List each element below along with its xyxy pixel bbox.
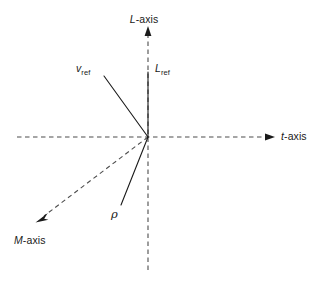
rho-label: ρ [111, 208, 118, 220]
v-ref-vector-line [104, 76, 148, 137]
diagram-vector-graphic [0, 0, 318, 286]
m-axis-arrowhead-icon [36, 213, 49, 222]
m-axis-label: M-axis [14, 235, 46, 246]
t-axis-arrowhead-icon [265, 134, 275, 141]
v-ref-label-subscript: ref [81, 68, 90, 77]
m-axis-label-symbol: M [14, 234, 23, 246]
l-axis-group [145, 26, 152, 270]
v-ref-label: vref [76, 63, 90, 74]
vector-diagram-canvas: L-axis t-axis M-axis vref Lref ρ [0, 0, 318, 286]
l-axis-arrowhead-icon [145, 26, 152, 36]
l-axis-label-suffix: -axis [136, 13, 159, 25]
l-ref-label-subscript: ref [161, 68, 170, 77]
l-axis-label: L-axis [108, 14, 180, 25]
rho-label-symbol: ρ [111, 207, 118, 221]
l-ref-label: Lref [155, 63, 170, 74]
m-axis-label-suffix: -axis [23, 234, 46, 246]
t-axis-label: t-axis [281, 131, 307, 142]
t-axis-label-suffix: -axis [284, 130, 307, 142]
